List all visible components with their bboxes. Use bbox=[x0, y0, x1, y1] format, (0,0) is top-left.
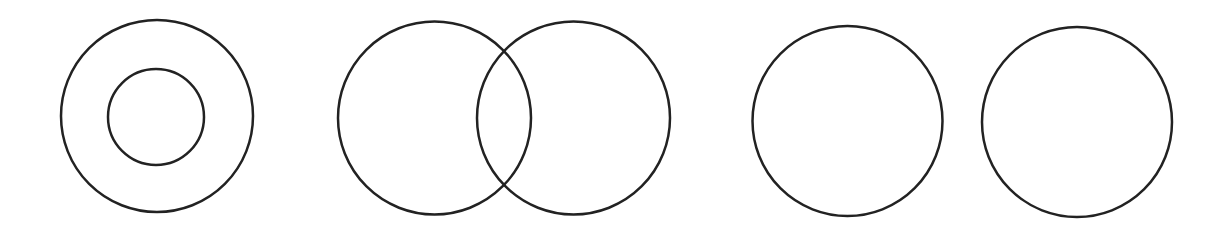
right-overlap-circle bbox=[477, 22, 670, 215]
separate-circles-group bbox=[753, 26, 1173, 217]
inner-circle bbox=[108, 69, 204, 165]
left-overlap-circle bbox=[338, 22, 531, 215]
diagram-canvas bbox=[0, 0, 1227, 233]
outer-circle bbox=[61, 20, 253, 212]
overlapping-circles-group bbox=[338, 22, 670, 215]
right-separate-circle bbox=[982, 27, 1172, 217]
concentric-circles-group bbox=[61, 20, 253, 212]
left-separate-circle bbox=[753, 26, 943, 216]
